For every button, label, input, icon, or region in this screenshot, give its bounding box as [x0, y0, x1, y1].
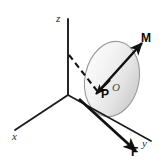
physics-diagram-figure: z x y M F P O — [0, 0, 163, 165]
axis-label-y: y — [142, 138, 147, 149]
axis-label-x: x — [12, 131, 17, 142]
point-label-p: P — [101, 88, 109, 100]
axis-label-z: z — [56, 13, 60, 24]
vector-label-moment: M — [141, 32, 151, 44]
x-axis-line — [15, 95, 68, 130]
vector-label-force: F — [131, 146, 138, 158]
point-label-o: O — [112, 82, 120, 93]
diagram-canvas — [0, 0, 163, 165]
